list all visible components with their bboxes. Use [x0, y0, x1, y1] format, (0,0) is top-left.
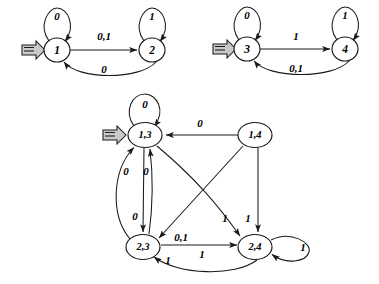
edge-label-s3-s4: 1 [293, 30, 299, 42]
state-label-2-4: 2,4 [247, 241, 261, 252]
edge-label-p13-p23: 0 [132, 210, 138, 222]
edge-p13-p23 [143, 148, 144, 232]
edge-label-s1-s2: 0,1 [97, 30, 111, 42]
edge-label-s4-s4: 1 [342, 9, 348, 21]
edge-label-p13-p24: 1 [222, 212, 228, 224]
edge-label-p24-p24: 1 [300, 241, 306, 253]
edge-p14-p23 [159, 146, 243, 238]
edge-label-s2-s1: 0 [101, 63, 107, 75]
automaton-right: 3 4 0 1 1 0,1 [213, 7, 358, 75]
edge-label-p24-p23: 1 [165, 254, 171, 266]
edge-label-p13-p13: 0 [142, 98, 148, 110]
state-label-2-3: 2,3 [135, 241, 149, 252]
edge-label-p23-p13: 0 [143, 165, 149, 177]
edge-label-s1-s1: 0 [54, 10, 60, 22]
start-arrow-s3 [213, 40, 236, 58]
edge-label-p14-p13: 0 [197, 117, 203, 129]
edge-label-p14-p23: 0,1 [174, 231, 188, 243]
start-arrow-s1 [22, 41, 45, 59]
edge-p23-p13-outer [116, 148, 134, 240]
edge-label-s4-s3: 0,1 [289, 62, 303, 74]
edge-label-s2-s2: 1 [149, 10, 155, 22]
edge-label-p23-p24: 1 [199, 248, 205, 260]
automata-canvas: 1 2 0 1 0,1 0 3 4 0 1 1 0,1 [0, 0, 379, 284]
state-label-3: 3 [243, 43, 250, 55]
state-label-1: 1 [54, 44, 60, 56]
state-label-2: 2 [148, 44, 155, 56]
start-arrow-p13 [103, 126, 126, 144]
state-label-1-4: 1,4 [248, 129, 261, 140]
state-label-4: 4 [341, 43, 348, 55]
state-label-1-3: 1,3 [138, 129, 151, 140]
edge-s2-s1 [64, 62, 156, 76]
automata-figure: 1 2 0 1 0,1 0 3 4 0 1 1 0,1 [0, 0, 379, 284]
edge-label-s3-s3: 0 [244, 9, 250, 21]
edge-label-p14-p24: 1 [245, 212, 251, 224]
automaton-left: 1 2 0 1 0,1 0 [22, 8, 165, 76]
edge-p23-p13 [149, 149, 152, 234]
product-automaton: 1,3 1,4 2,3 2,4 0 0 0 0 0 0,1 1 1 1 1 1 [103, 94, 309, 272]
edge-label-p23-p13-outer: 0 [123, 165, 129, 177]
